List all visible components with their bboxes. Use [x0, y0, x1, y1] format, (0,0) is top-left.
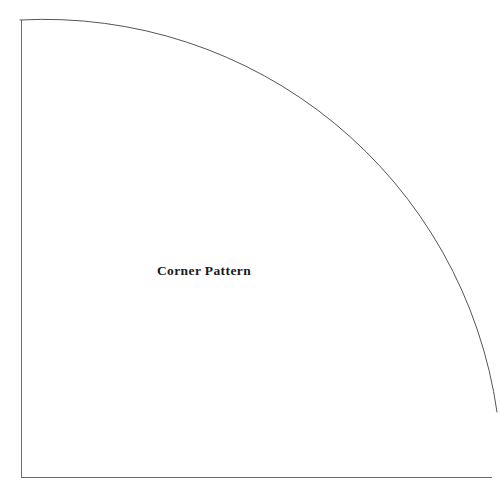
quarter-circle-arc — [20, 19, 497, 412]
corner-pattern-figure: Corner Pattern — [0, 0, 500, 494]
pattern-canvas — [0, 0, 500, 494]
